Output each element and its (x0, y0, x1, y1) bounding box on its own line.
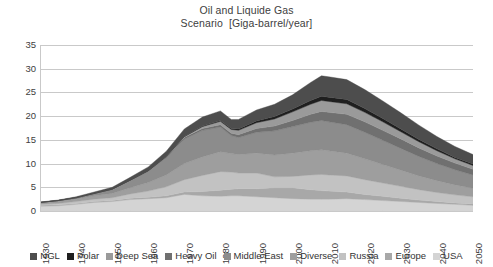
legend-label: Polar (77, 251, 99, 261)
legend-item-deep-sea[interactable]: Deep Sea (106, 251, 158, 261)
chart-container: Oil and Liquide Gas Scenario [Giga-barre… (0, 0, 493, 267)
legend-swatch-icon (165, 253, 172, 260)
legend-label: USA (443, 251, 463, 261)
legend-swatch-icon (224, 253, 231, 260)
y-tick-label: 15 (2, 134, 36, 145)
legend-label: Diverse (300, 251, 332, 261)
x-axis-labels: 1930194019501960197019801990200020102020… (40, 213, 473, 247)
legend-item-middle-east[interactable]: Middle East (224, 251, 284, 261)
legend-label: Middle East (234, 251, 284, 261)
legend-label: NGL (40, 251, 60, 261)
y-tick-label: 30 (2, 63, 36, 74)
legend-swatch-icon (385, 253, 392, 260)
legend-label: Heavy Oil (175, 251, 216, 261)
legend-label: Russia (349, 251, 378, 261)
y-tick-label: 5 (2, 181, 36, 192)
chart-legend: NGLPolarDeep SeaHeavy OilMiddle EastDive… (0, 248, 493, 264)
plot-area (40, 45, 473, 211)
legend-item-diverse[interactable]: Diverse (290, 251, 332, 261)
y-tick-label: 0 (2, 205, 36, 216)
area-series-layer (40, 45, 473, 211)
legend-swatch-icon (106, 253, 113, 260)
chart-title: Oil and Liquide Gas (0, 4, 493, 17)
gridline-0 (40, 211, 473, 212)
legend-swatch-icon (433, 253, 440, 260)
y-axis-labels: 05101520253035 (0, 45, 36, 211)
legend-item-russia[interactable]: Russia (339, 251, 378, 261)
y-tick-label: 25 (2, 86, 36, 97)
chart-title-block: Oil and Liquide Gas Scenario [Giga-barre… (0, 4, 493, 29)
legend-swatch-icon (30, 253, 37, 260)
legend-item-usa[interactable]: USA (433, 251, 463, 261)
legend-item-polar[interactable]: Polar (67, 251, 99, 261)
legend-label: Europe (395, 251, 426, 261)
legend-swatch-icon (290, 253, 297, 260)
y-tick-label: 35 (2, 39, 36, 50)
legend-item-europe[interactable]: Europe (385, 251, 426, 261)
y-tick-label: 20 (2, 110, 36, 121)
chart-subtitle: Scenario [Giga-barrel/year] (0, 17, 493, 30)
legend-label: Deep Sea (116, 251, 158, 261)
y-axis-line (40, 45, 41, 211)
legend-item-heavy-oil[interactable]: Heavy Oil (165, 251, 216, 261)
y-tick-label: 10 (2, 158, 36, 169)
legend-swatch-icon (339, 253, 346, 260)
legend-swatch-icon (67, 253, 74, 260)
legend-item-ngl[interactable]: NGL (30, 251, 60, 261)
